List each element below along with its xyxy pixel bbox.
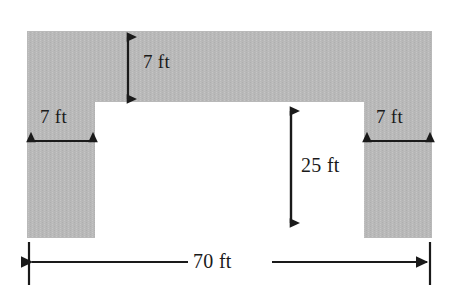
shaded-u-region xyxy=(27,31,432,238)
u-shape-diagram xyxy=(0,0,456,287)
dimension-label-left-leg-width: 7 ft xyxy=(40,107,67,126)
dimension-label-top-thickness: 7 ft xyxy=(143,52,170,71)
dimension-label-notch-height: 25 ft xyxy=(301,155,340,175)
dimension-label-right-leg-width: 7 ft xyxy=(376,107,403,126)
dimension-label-overall-width: 70 ft xyxy=(193,251,232,271)
figure-canvas: 7 ft 7 ft 7 ft 25 ft 70 ft xyxy=(0,0,456,287)
